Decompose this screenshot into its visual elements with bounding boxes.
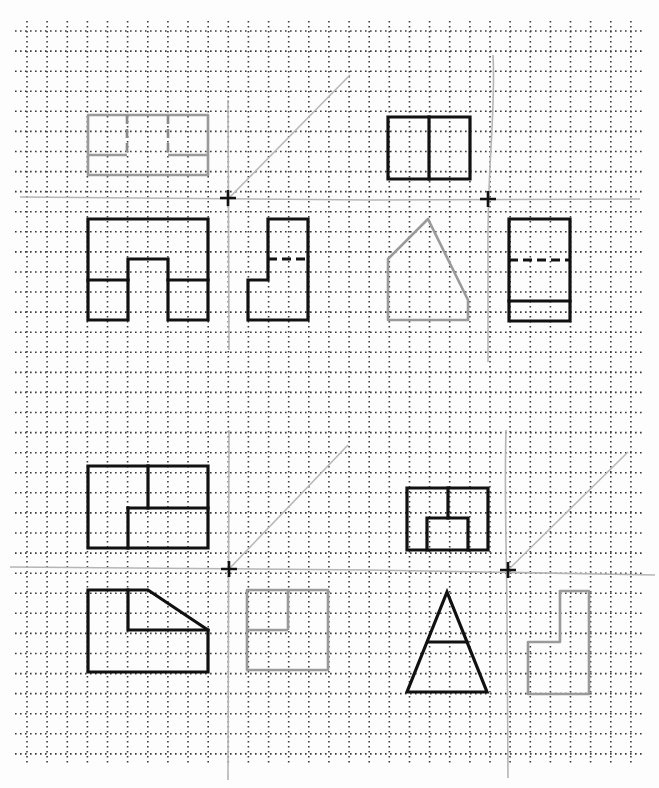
orthographic-projection-drawing bbox=[0, 0, 659, 788]
top-view bbox=[388, 117, 470, 179]
visible-edge bbox=[509, 219, 570, 321]
vertical-fold-line bbox=[505, 430, 508, 778]
side-view bbox=[248, 219, 308, 320]
top-view bbox=[88, 466, 208, 548]
problem-2 bbox=[388, 117, 570, 321]
front-view bbox=[407, 592, 487, 692]
vertical-fold-line bbox=[228, 100, 229, 350]
visible-edge bbox=[528, 591, 589, 694]
problem-3-construction bbox=[10, 430, 370, 780]
front-view bbox=[88, 219, 208, 320]
side-view-pencil bbox=[528, 591, 589, 694]
problem-2-construction bbox=[370, 55, 640, 362]
projection-views bbox=[88, 115, 589, 694]
side-view-pencil bbox=[247, 590, 328, 670]
miter-line-45deg bbox=[229, 75, 350, 198]
top-view bbox=[407, 488, 488, 550]
problem-4 bbox=[407, 488, 589, 694]
visible-edge bbox=[388, 219, 468, 320]
problem-1 bbox=[88, 115, 308, 320]
horizontal-fold-line bbox=[370, 199, 640, 200]
graph-paper-sheet bbox=[0, 0, 659, 788]
problem-4-construction bbox=[370, 430, 655, 778]
visible-edge bbox=[88, 219, 208, 320]
origin-cross-icon bbox=[480, 191, 496, 207]
miter-line-45deg bbox=[229, 445, 348, 569]
visible-edge bbox=[248, 219, 308, 320]
side-view bbox=[509, 219, 570, 321]
horizontal-fold-line bbox=[20, 197, 370, 200]
front-view-pencil bbox=[388, 219, 468, 320]
vertical-fold-line bbox=[228, 430, 229, 780]
horizontal-fold-line bbox=[10, 567, 370, 570]
visible-edge bbox=[427, 518, 468, 550]
